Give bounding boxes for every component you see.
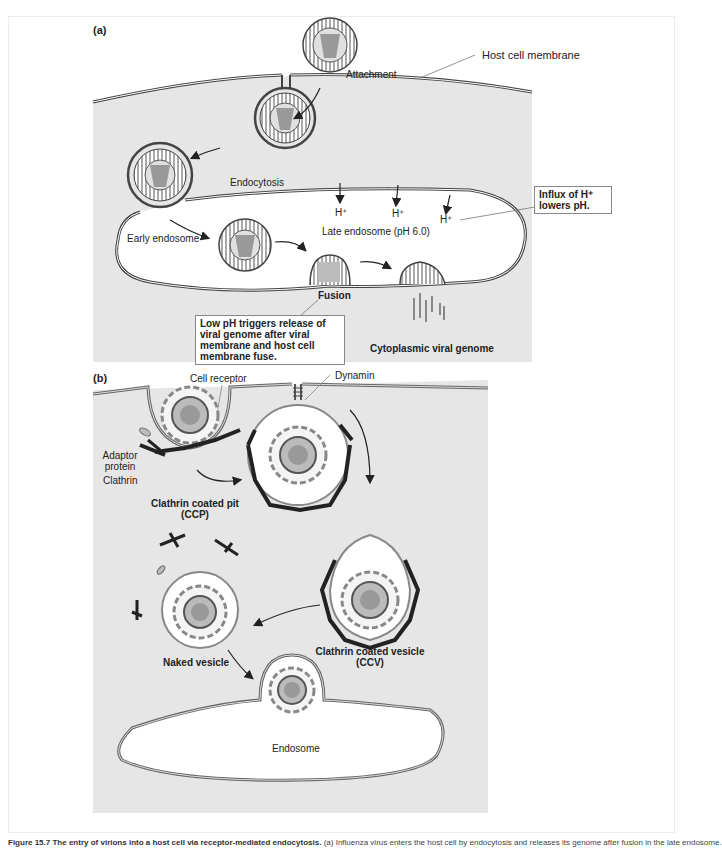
h-plus-label-2: H⁺ <box>392 208 404 219</box>
late-endosome-label: Late endosome (pH 6.0) <box>322 226 430 237</box>
adaptor-protein-label: Adaptor protein <box>95 450 145 472</box>
early-endosome-label: Early endosome <box>127 233 199 244</box>
clathrin-label: Clathrin <box>103 475 137 486</box>
virus-naked-vesicle <box>162 572 238 648</box>
virus-fusing-endosome <box>270 668 314 712</box>
endosome-label: Endosome <box>272 743 320 754</box>
figure-caption: Figure 15.7 The entry of virions into a … <box>8 838 722 847</box>
attachment-label: Attachment <box>346 69 397 80</box>
ccp-label: Clathrin coated pit (CCP) <box>140 498 250 520</box>
virus-in-endosome <box>219 219 271 271</box>
virus-endocytosis <box>255 88 315 148</box>
ccv-label: Clathrin coated vesicle (CCV) <box>310 646 430 668</box>
panel-b-label: (b) <box>93 372 107 384</box>
influx-callout: Influx of H⁺ lowers pH. <box>534 186 612 214</box>
fusion-label: Fusion <box>318 290 351 301</box>
cell-receptor-label: Cell receptor <box>190 373 247 384</box>
panel-a-label: (a) <box>93 24 106 36</box>
host-cell-membrane-label: Host cell membrane <box>482 50 580 61</box>
low-ph-callout: Low pH triggers release of viral genome … <box>195 315 345 365</box>
h-plus-label-3: H⁺ <box>440 214 452 225</box>
caption-title: Figure 15.7 The entry of virions into a … <box>8 838 321 847</box>
virus-in-pit <box>162 387 218 443</box>
caption-text: (a) Influenza virus enters the host cell… <box>324 838 722 847</box>
cytoplasmic-viral-genome-label: Cytoplasmic viral genome <box>370 343 494 354</box>
naked-vesicle-label: Naked vesicle <box>163 657 229 668</box>
dynamin-label: Dynamin <box>335 370 374 381</box>
virus-early-endosome <box>128 143 192 207</box>
endocytosis-label: Endocytosis <box>230 177 284 188</box>
virus-attached <box>303 18 357 72</box>
h-plus-label-1: H⁺ <box>335 207 347 218</box>
